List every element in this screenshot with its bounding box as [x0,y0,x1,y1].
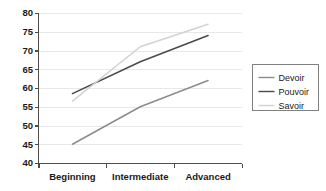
legend-label-savoir: Savoir [279,101,305,111]
y-axis-tick-label: 60 [22,82,33,93]
x-axis-category-label: Intermediate [112,171,169,182]
legend-label-pouvoir: Pouvoir [279,87,310,97]
y-axis-tick-label: 40 [22,157,33,168]
y-axis-tick-label: 70 [22,45,33,56]
legend-label-devoir: Devoir [279,73,305,83]
y-axis-tick-label: 65 [22,64,33,75]
y-axis-tick-label: 45 [22,139,33,150]
y-axis-tick-labels: 404550556065707580 [22,7,33,168]
x-axis-category-labels: BeginningIntermediateAdvanced [49,171,231,182]
y-axis-tick-label: 55 [22,101,33,112]
chart-canvas: 404550556065707580 BeginningIntermediate… [0,0,326,191]
y-axis-tick-label: 50 [22,120,33,131]
line-chart-figure: 404550556065707580 BeginningIntermediate… [0,0,326,191]
x-axis-category-label: Advanced [185,171,231,182]
y-axis-tick-label: 80 [22,7,33,18]
y-axis-tick-label: 75 [22,26,33,37]
x-axis-category-label: Beginning [49,171,96,182]
